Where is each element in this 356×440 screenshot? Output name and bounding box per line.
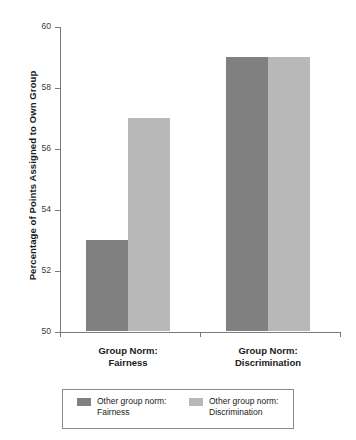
y-axis-tick-label: 50	[42, 326, 51, 336]
category-label-line1: Group Norm:	[198, 345, 338, 357]
legend-label-line1: Other group norm:	[97, 396, 166, 407]
bar	[226, 57, 268, 332]
y-axis-line	[60, 27, 61, 333]
y-axis-tick: 58	[55, 88, 60, 89]
y-axis-tick: 54	[55, 210, 60, 211]
x-axis-tick	[340, 332, 341, 337]
category-label-line2: Discrimination	[198, 357, 338, 369]
y-axis-tick-label: 58	[42, 82, 51, 92]
legend-swatch-icon	[189, 398, 203, 406]
legend-label-line2: Fairness	[97, 407, 166, 418]
category-label-line1: Group Norm:	[58, 345, 198, 357]
legend-label-line1: Other group norm:	[209, 396, 278, 407]
y-axis-tick-label: 52	[42, 265, 51, 275]
x-axis-tick	[200, 332, 201, 337]
y-axis-tick-label: 60	[42, 21, 51, 31]
x-axis-category-label: Group Norm:Fairness	[58, 345, 198, 369]
x-axis-tick	[60, 332, 61, 337]
bar	[128, 118, 170, 332]
y-axis-tick-label: 56	[42, 143, 51, 153]
y-axis-tick-label: 54	[42, 204, 51, 214]
y-axis-tick: 52	[55, 271, 60, 272]
y-axis-title: Percentage of Points Assigned to Own Gro…	[27, 26, 38, 326]
y-axis-tick: 56	[55, 149, 60, 150]
legend-item[interactable]: Other group norm:Fairness	[77, 396, 166, 418]
x-axis-category-label: Group Norm:Discrimination	[198, 345, 338, 369]
legend-label: Other group norm:Fairness	[97, 396, 166, 418]
bar	[268, 57, 310, 332]
category-label-line2: Fairness	[58, 357, 198, 369]
legend-label-line2: Discrimination	[209, 407, 278, 418]
plot-area: 505254565860	[60, 27, 340, 332]
legend-swatch-icon	[77, 398, 91, 406]
legend: Other group norm:FairnessOther group nor…	[62, 389, 294, 429]
legend-label: Other group norm:Discrimination	[209, 396, 278, 418]
bar	[86, 240, 128, 332]
bar-chart-figure: Percentage of Points Assigned to Own Gro…	[0, 0, 356, 440]
legend-item[interactable]: Other group norm:Discrimination	[189, 396, 278, 418]
y-axis-tick: 60	[55, 27, 60, 28]
